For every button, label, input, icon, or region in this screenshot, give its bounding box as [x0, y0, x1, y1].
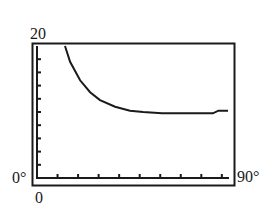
outer-frame	[33, 44, 235, 186]
chart-plot	[0, 0, 266, 212]
data-curve	[65, 46, 228, 113]
